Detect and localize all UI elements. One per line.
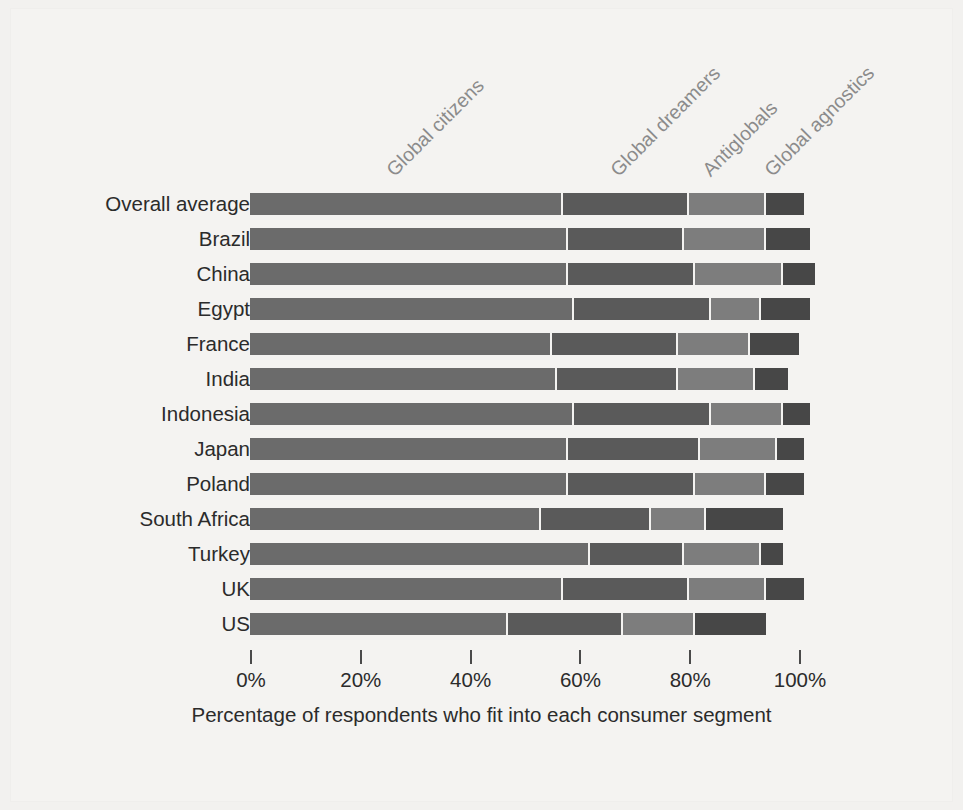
bar-segment — [250, 193, 563, 215]
chart-row: Brazil — [0, 228, 963, 250]
x-axis-tick-label: 40% — [450, 668, 491, 692]
x-axis-tick-label: 0% — [236, 668, 266, 692]
chart-row: Indonesia — [0, 403, 963, 425]
stacked-bar — [250, 193, 804, 215]
bar-segment — [766, 578, 804, 600]
chart-row: Japan — [0, 438, 963, 460]
bar-segment — [700, 438, 777, 460]
bar-segment — [695, 473, 766, 495]
category-label: Japan — [0, 437, 250, 460]
bar-segment — [711, 403, 782, 425]
stacked-bar — [250, 368, 788, 390]
chart-row: Turkey — [0, 543, 963, 565]
category-label: Poland — [0, 472, 250, 495]
chart-row: US — [0, 613, 963, 635]
chart-row: South Africa — [0, 508, 963, 530]
bar-segment — [777, 438, 804, 460]
x-axis-tick-label: 80% — [670, 668, 711, 692]
bar-segment — [250, 578, 563, 600]
bar-segment — [250, 228, 568, 250]
bar-segment — [563, 578, 689, 600]
chart-row: Overall average — [0, 193, 963, 215]
bar-segment — [590, 543, 683, 565]
x-axis-tick — [250, 650, 252, 664]
bar-segment — [541, 508, 651, 530]
category-label: France — [0, 332, 250, 355]
category-label: Overall average — [0, 192, 250, 215]
x-axis-tick — [579, 650, 581, 664]
stacked-bar — [250, 438, 804, 460]
category-label: UK — [0, 577, 250, 600]
chart-row: India — [0, 368, 963, 390]
x-axis-tick — [360, 650, 362, 664]
bar-segment — [695, 263, 783, 285]
x-axis-tick — [470, 650, 472, 664]
bar-segment — [651, 508, 706, 530]
bar-segment — [684, 543, 761, 565]
bar-segment — [250, 263, 568, 285]
bar-segment — [689, 578, 766, 600]
bar-segment — [250, 403, 574, 425]
chart-row: Egypt — [0, 298, 963, 320]
bar-segment — [250, 473, 568, 495]
bar-segment — [250, 543, 590, 565]
bar-segment — [761, 543, 783, 565]
bar-segment — [568, 228, 683, 250]
x-axis-tick-label: 60% — [560, 668, 601, 692]
bar-segment — [563, 193, 689, 215]
chart-row: UK — [0, 578, 963, 600]
category-label: China — [0, 262, 250, 285]
category-label: US — [0, 612, 250, 635]
bar-segment — [711, 298, 760, 320]
stacked-bar — [250, 228, 810, 250]
stacked-bar — [250, 613, 766, 635]
bar-segment — [552, 333, 678, 355]
stacked-bar — [250, 403, 810, 425]
bar-segment — [557, 368, 678, 390]
bar-segment — [695, 613, 766, 635]
x-axis-tick-label: 20% — [340, 668, 381, 692]
chart-row: China — [0, 263, 963, 285]
bar-segment — [250, 438, 568, 460]
x-axis-tick — [689, 650, 691, 664]
bar-segment — [250, 508, 541, 530]
x-axis-tick — [799, 650, 801, 664]
bar-segment — [766, 473, 804, 495]
x-axis-caption: Percentage of respondents who fit into e… — [0, 703, 963, 727]
bar-segment — [783, 403, 810, 425]
category-label: India — [0, 367, 250, 390]
x-axis-tick-label: 100% — [774, 668, 826, 692]
category-label: Brazil — [0, 227, 250, 250]
bar-segment — [766, 193, 804, 215]
stacked-bar — [250, 473, 804, 495]
bar-segment — [684, 228, 766, 250]
category-label: Indonesia — [0, 402, 250, 425]
stacked-bar — [250, 508, 783, 530]
chart-body: 0%20%40%60%80%100% Percentage of respond… — [0, 0, 963, 810]
bar-segment — [568, 473, 694, 495]
bar-segment — [678, 333, 749, 355]
category-label: Turkey — [0, 542, 250, 565]
stacked-bar — [250, 263, 815, 285]
category-label: South Africa — [0, 507, 250, 530]
bar-segment — [508, 613, 623, 635]
chart-row: France — [0, 333, 963, 355]
stacked-bar — [250, 578, 804, 600]
bar-segment — [706, 508, 783, 530]
bar-segment — [250, 333, 552, 355]
bar-segment — [750, 333, 799, 355]
stacked-bar — [250, 333, 799, 355]
category-label: Egypt — [0, 297, 250, 320]
bar-segment — [766, 228, 810, 250]
stacked-bar — [250, 543, 783, 565]
bar-segment — [755, 368, 788, 390]
bar-segment — [568, 438, 700, 460]
bar-segment — [689, 193, 766, 215]
bar-segment — [761, 298, 810, 320]
bar-segment — [678, 368, 755, 390]
bar-segment — [250, 298, 574, 320]
bar-segment — [574, 403, 711, 425]
stacked-bar — [250, 298, 810, 320]
bar-segment — [623, 613, 694, 635]
bar-segment — [250, 368, 557, 390]
